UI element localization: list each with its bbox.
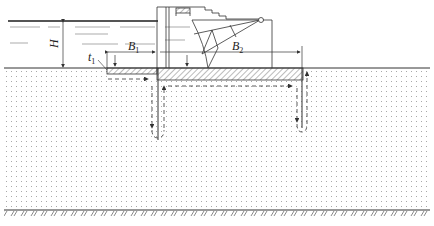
- dam-slab: [157, 68, 303, 80]
- label-H: H: [47, 38, 61, 49]
- label-t1: t1: [88, 50, 95, 66]
- upstream-apron: [107, 68, 157, 74]
- label-B2: B2: [232, 39, 243, 55]
- seepage-diagram: H B1 B2 t1: [0, 0, 434, 226]
- water-surface: [8, 21, 190, 44]
- label-B1: B1: [128, 39, 139, 55]
- soil-foundation: [4, 68, 430, 210]
- bedrock-boundary: [4, 210, 430, 216]
